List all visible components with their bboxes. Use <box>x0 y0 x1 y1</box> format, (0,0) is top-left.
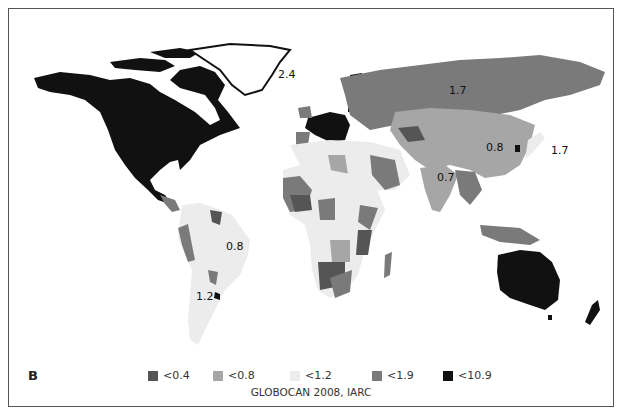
region-china <box>390 108 535 178</box>
legend-item-lt-1-2: <1.2 <box>290 369 332 382</box>
legend-swatch <box>443 371 453 381</box>
legend-label: <1.2 <box>305 369 332 382</box>
map-label-russia: 1.7 <box>449 84 467 97</box>
map-label-argentina: 1.2 <box>196 290 214 303</box>
legend-label: <0.8 <box>228 369 255 382</box>
region-north-america <box>34 66 240 205</box>
legend-swatch <box>148 371 158 381</box>
legend-label: <10.9 <box>458 369 492 382</box>
world-choropleth-map <box>0 0 622 417</box>
legend-swatch <box>290 371 300 381</box>
legend-item-lt-1-9: <1.9 <box>372 369 414 382</box>
legend-item-lt-0-8: <0.8 <box>213 369 255 382</box>
source-credit: GLOBOCAN 2008, IARC <box>0 386 622 398</box>
map-label-japan: 1.7 <box>551 144 569 157</box>
legend-item-lt-0-4: <0.4 <box>148 369 190 382</box>
legend-swatch <box>372 371 382 381</box>
panel-label: B <box>28 368 38 383</box>
legend-label: <1.9 <box>387 369 414 382</box>
region-australia <box>497 250 560 310</box>
legend-swatch <box>213 371 223 381</box>
map-label-china: 0.8 <box>486 141 504 154</box>
legend-item-lt-10-9: <10.9 <box>443 369 492 382</box>
legend-label: <0.4 <box>163 369 190 382</box>
map-label-india: 0.7 <box>437 171 455 184</box>
map-label-greenland: 2.4 <box>278 68 296 81</box>
map-label-brazil: 0.8 <box>226 240 244 253</box>
